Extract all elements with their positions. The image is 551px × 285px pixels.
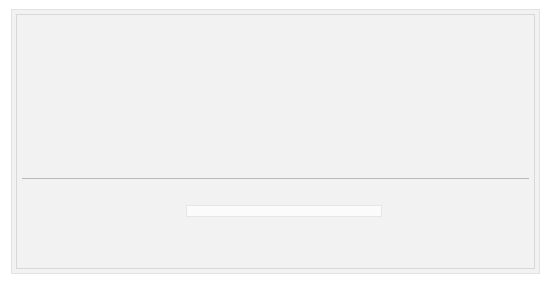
x-axis-line xyxy=(22,178,529,179)
bar-series-container xyxy=(22,18,529,178)
chart-legend xyxy=(186,205,382,217)
plot-area xyxy=(22,18,529,178)
chart-figure xyxy=(0,0,551,285)
